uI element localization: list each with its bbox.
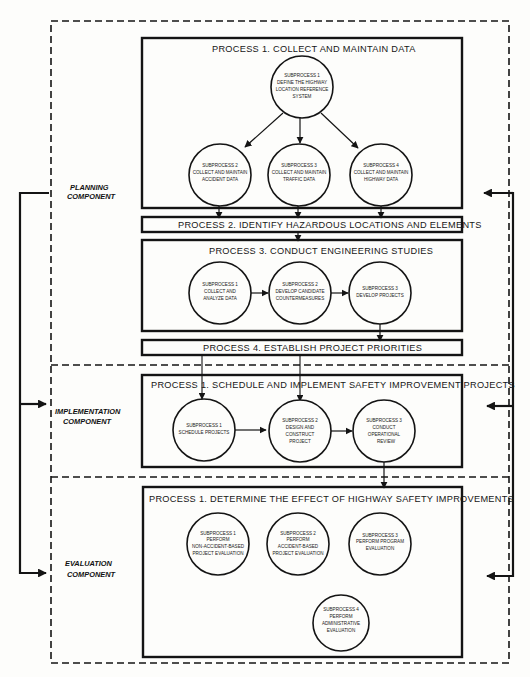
svg-text:CONSTRUCT: CONSTRUCT <box>286 432 315 437</box>
svg-text:SUBPROCESS 1: SUBPROCESS 1 <box>200 531 236 536</box>
svg-text:PERFORM: PERFORM <box>207 537 230 542</box>
svg-text:SUBPROCESS 2: SUBPROCESS 2 <box>202 163 238 168</box>
svg-text:SUBPROCESS 2: SUBPROCESS 2 <box>282 282 318 287</box>
svg-text:SUBPROCESS 4: SUBPROCESS 4 <box>363 163 399 168</box>
svg-text:ACCIDENT-BASED: ACCIDENT-BASED <box>278 544 319 549</box>
hsip-flow-diagram: PLANNING COMPONENT IMPLEMENTATION COMPON… <box>0 0 530 677</box>
svg-text:COLLECT AND MAINTAIN: COLLECT AND MAINTAIN <box>272 170 327 175</box>
subprocess-circle: SUBPROCESS 1 COLLECT AND ANALYZE DATA <box>189 262 251 324</box>
svg-text:DESIGN AND: DESIGN AND <box>286 425 315 430</box>
flow-arrows <box>202 356 300 401</box>
svg-text:SUBPROCESS 1: SUBPROCESS 1 <box>202 282 238 287</box>
svg-text:PROJECT EVALUATION: PROJECT EVALUATION <box>192 551 243 556</box>
subprocess-circle: SUBPROCESS 1 PERFORM NON-ACCIDENT-BASED … <box>187 513 249 575</box>
svg-text:SUBPROCESS 3: SUBPROCESS 3 <box>366 418 402 423</box>
subprocess-circle: SUBPROCESS 3 PERFORM PROGRAM EVALUATION <box>349 513 411 575</box>
svg-text:LOCATION REFERENCE: LOCATION REFERENCE <box>276 87 329 92</box>
svg-text:SUBPROCESS 3: SUBPROCESS 3 <box>281 163 317 168</box>
svg-text:SYSTEM: SYSTEM <box>293 94 312 99</box>
svg-text:ADMINISTRATIVE: ADMINISTRATIVE <box>322 621 360 626</box>
svg-text:EVALUATION: EVALUATION <box>65 559 113 568</box>
svg-text:SCHEDULE PROJECTS: SCHEDULE PROJECTS <box>179 430 230 435</box>
svg-text:ACCIDENT DATA: ACCIDENT DATA <box>202 177 239 182</box>
svg-text:REVIEW: REVIEW <box>377 439 396 444</box>
svg-text:EVALUATION: EVALUATION <box>327 628 355 633</box>
svg-text:SUBPROCESS 1: SUBPROCESS 1 <box>186 423 222 428</box>
svg-text:PROCESS 1. COLLECT AND MAINTA: PROCESS 1. COLLECT AND MAINTAIN DATA <box>212 44 416 54</box>
planning-process-2-box: PROCESS 2. IDENTIFY HAZARDOUS LOCATIONS … <box>142 217 482 232</box>
planning-component-label: PLANNING COMPONENT <box>67 183 117 201</box>
subprocess-circle: SUBPROCESS 2 COLLECT AND MAINTAIN ACCIDE… <box>189 144 251 206</box>
svg-text:TRAFFIC DATA: TRAFFIC DATA <box>283 177 316 182</box>
subprocess-circle: SUBPROCESS 2 PERFORM ACCIDENT-BASED PROJ… <box>267 513 329 575</box>
svg-text:PROCESS 2. IDENTIFY HAZARDOUS: PROCESS 2. IDENTIFY HAZARDOUS LOCATIONS … <box>178 220 482 230</box>
svg-text:OPERATIONAL: OPERATIONAL <box>368 432 401 437</box>
svg-text:SUBPROCESS 2: SUBPROCESS 2 <box>282 418 318 423</box>
svg-text:COMPONENT: COMPONENT <box>63 417 113 426</box>
svg-text:COUNTERMEASURES: COUNTERMEASURES <box>276 296 325 301</box>
subprocess-circle: SUBPROCESS 4 PERFORM ADMINISTRATIVE EVAL… <box>313 595 369 651</box>
svg-text:DEVELOP CANDIDATE: DEVELOP CANDIDATE <box>275 289 324 294</box>
svg-text:COMPONENT: COMPONENT <box>67 570 117 579</box>
subprocess-circle: SUBPROCESS 2 DESIGN AND CONSTRUCT PROJEC… <box>269 400 331 462</box>
svg-text:PLANNING: PLANNING <box>70 183 109 192</box>
svg-text:DEFINE THE HIGHWAY: DEFINE THE HIGHWAY <box>277 80 327 85</box>
svg-text:COLLECT AND MAINTAIN: COLLECT AND MAINTAIN <box>354 170 409 175</box>
svg-text:COLLECT AND MAINTAIN: COLLECT AND MAINTAIN <box>193 170 248 175</box>
subprocess-circle: SUBPROCESS 3 DEVELOP PROJECTS <box>349 262 411 324</box>
svg-text:HIGHWAY DATA: HIGHWAY DATA <box>364 177 399 182</box>
svg-text:PROJECT EVALUATION: PROJECT EVALUATION <box>272 551 323 556</box>
svg-text:EVALUATION: EVALUATION <box>366 546 394 551</box>
svg-text:PERFORM: PERFORM <box>287 537 310 542</box>
subprocess-circle: SUBPROCESS 1 SCHEDULE PROJECTS <box>173 399 235 461</box>
svg-text:IMPLEMENTATION: IMPLEMENTATION <box>55 407 121 416</box>
svg-text:COLLECT AND: COLLECT AND <box>204 289 237 294</box>
svg-text:DEVELOP PROJECTS: DEVELOP PROJECTS <box>356 293 403 298</box>
svg-text:SUBPROCESS 2: SUBPROCESS 2 <box>280 531 316 536</box>
svg-text:PROCESS 3. CONDUCT ENGINEERIN: PROCESS 3. CONDUCT ENGINEERING STUDIES <box>209 246 433 256</box>
svg-text:PROJECT: PROJECT <box>289 439 311 444</box>
svg-text:SUBPROCESS 3: SUBPROCESS 3 <box>362 533 398 538</box>
subprocess-circle: SUBPROCESS 3 COLLECT AND MAINTAIN TRAFFI… <box>268 144 330 206</box>
subprocess-circle: SUBPROCESS 4 COLLECT AND MAINTAIN HIGHWA… <box>350 144 412 206</box>
svg-text:SUBPROCESS 4: SUBPROCESS 4 <box>323 607 359 612</box>
svg-text:PROCESS 1. DETERMINE THE EFFE: PROCESS 1. DETERMINE THE EFFECT OF HIGHW… <box>149 494 514 504</box>
svg-text:ANALYZE DATA: ANALYZE DATA <box>203 296 237 301</box>
implementation-component-label: IMPLEMENTATION COMPONENT <box>55 407 121 426</box>
svg-text:CONDUCT: CONDUCT <box>373 425 396 430</box>
left-feedback-loop <box>20 193 49 573</box>
subprocess-circle: SUBPROCESS 2 DEVELOP CANDIDATE COUNTERME… <box>269 262 331 324</box>
svg-text:COMPONENT: COMPONENT <box>67 192 117 201</box>
svg-text:PROCESS 4. ESTABLISH PROJECT: PROCESS 4. ESTABLISH PROJECT PRIORITIES <box>203 343 422 353</box>
evaluation-component-label: EVALUATION COMPONENT <box>65 559 117 579</box>
svg-text:NON-ACCIDENT-BASED: NON-ACCIDENT-BASED <box>192 544 245 549</box>
subprocess-circle: SUBPROCESS 1 DEFINE THE HIGHWAY LOCATION… <box>271 56 333 118</box>
svg-text:PERFORM: PERFORM <box>330 614 353 619</box>
svg-text:SUBPROCESS 1: SUBPROCESS 1 <box>284 73 320 78</box>
svg-text:SUBPROCESS 3: SUBPROCESS 3 <box>362 286 398 291</box>
svg-text:PERFORM PROGRAM: PERFORM PROGRAM <box>356 539 404 544</box>
planning-process-4-box: PROCESS 4. ESTABLISH PROJECT PRIORITIES <box>142 340 462 355</box>
subprocess-circle: SUBPROCESS 3 CONDUCT OPERATIONAL REVIEW <box>353 400 415 462</box>
svg-text:PROCESS 1. SCHEDULE AND IMPLE: PROCESS 1. SCHEDULE AND IMPLEMENT SAFETY… <box>151 380 515 390</box>
